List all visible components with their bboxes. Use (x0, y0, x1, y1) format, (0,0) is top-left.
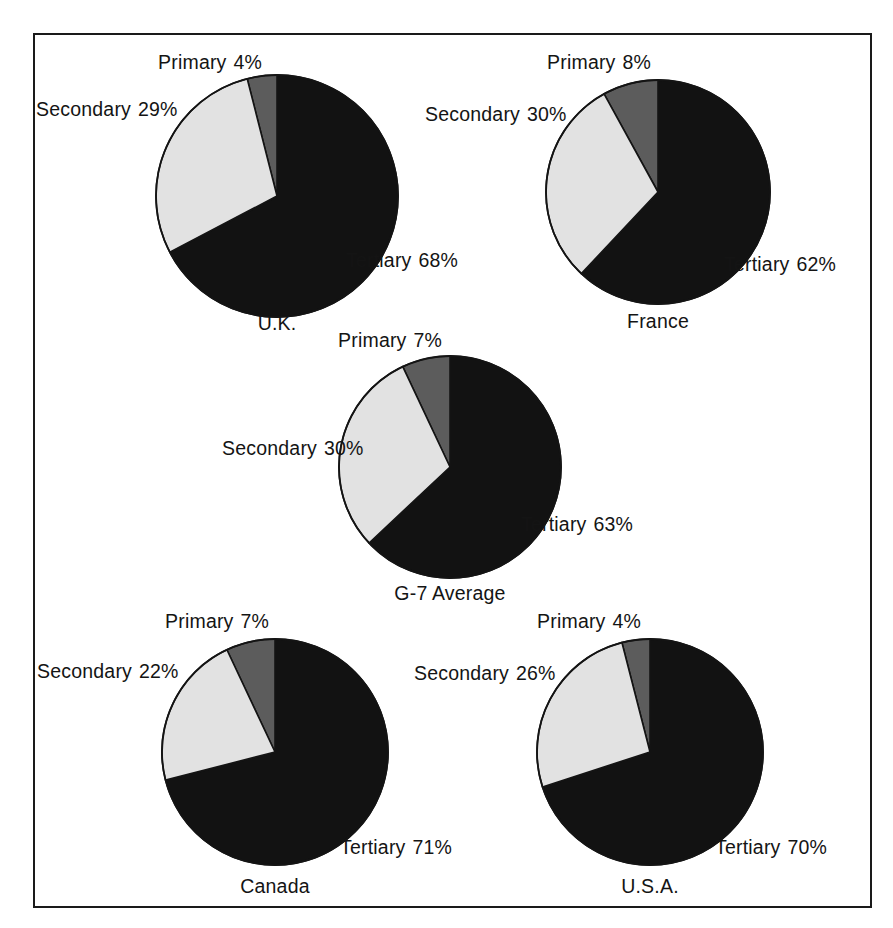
pie-chart-france-primary-label: Primary8% (547, 53, 651, 73)
primary-label-value: 8% (623, 51, 652, 73)
secondary-label-value: 30% (527, 103, 567, 125)
primary-label-text: Primary (537, 610, 606, 632)
tertiary-label-text: Tertiary (340, 836, 406, 858)
primary-label-text: Primary (547, 51, 616, 73)
primary-label-text: Primary (165, 610, 234, 632)
pie-chart-canada-primary-label: Primary7% (165, 612, 269, 632)
tertiary-label-text: Tertiary (521, 513, 587, 535)
figure-frame: Primary4% Secondary29% Tertiary68% U.K. … (33, 33, 872, 908)
primary-label-text: Primary (338, 329, 407, 351)
pie-chart-canada-svg (35, 605, 455, 910)
primary-label-value: 7% (414, 329, 443, 351)
pie-chart-usa: Primary4% Secondary26% Tertiary70% U.S.A… (415, 605, 874, 910)
tertiary-label-text: Tertiary (715, 836, 781, 858)
pie-chart-g7-average: Primary7% Secondary30% Tertiary63% G-7 A… (225, 343, 675, 635)
pie-chart-france-secondary-label: Secondary30% (425, 105, 567, 125)
pie-chart-uk-caption: U.K. (258, 314, 297, 334)
secondary-label-value: 22% (139, 660, 179, 682)
pie-chart-usa-caption: U.S.A. (621, 877, 679, 897)
pie-chart-uk: Primary4% Secondary29% Tertiary68% U.K. (35, 35, 455, 335)
pie-chart-canada-secondary-label: Secondary22% (37, 662, 179, 682)
secondary-label-value: 30% (324, 437, 364, 459)
primary-label-value: 7% (241, 610, 270, 632)
tertiary-label-value: 63% (594, 513, 634, 535)
secondary-label-text: Secondary (425, 103, 520, 125)
tertiary-label-value: 70% (788, 836, 828, 858)
secondary-label-value: 26% (516, 662, 556, 684)
secondary-label-text: Secondary (222, 437, 317, 459)
pie-chart-uk-svg (35, 35, 455, 335)
pie-chart-france: Primary8% Secondary30% Tertiary62% Franc… (435, 35, 874, 335)
pie-chart-usa-svg (415, 605, 874, 910)
pie-chart-uk-secondary-label: Secondary29% (36, 100, 178, 120)
tertiary-label-text: Tertiary (724, 253, 790, 275)
pie-chart-uk-primary-label: Primary4% (158, 53, 262, 73)
pie-chart-usa-secondary-label: Secondary26% (414, 664, 556, 684)
secondary-label-value: 29% (138, 98, 178, 120)
pie-chart-france-svg (435, 35, 874, 335)
pie-chart-canada: Primary7% Secondary22% Tertiary71% Canad… (35, 605, 455, 910)
primary-label-value: 4% (234, 51, 263, 73)
pie-chart-usa-tertiary-label: Tertiary70% (715, 838, 827, 858)
pie-chart-france-tertiary-label: Tertiary62% (724, 255, 836, 275)
pie-chart-g7-average-tertiary-label: Tertiary63% (521, 515, 633, 535)
pie-chart-canada-caption: Canada (240, 877, 310, 897)
primary-label-value: 4% (613, 610, 642, 632)
primary-label-text: Primary (158, 51, 227, 73)
secondary-label-text: Secondary (37, 660, 132, 682)
tertiary-label-value: 62% (797, 253, 837, 275)
pie-chart-g7-average-secondary-label: Secondary30% (222, 439, 364, 459)
tertiary-label-text: Tertiary (346, 249, 412, 271)
pie-chart-france-caption: France (627, 312, 689, 332)
pie-chart-g7-average-caption: G-7 Average (394, 584, 505, 604)
secondary-label-text: Secondary (36, 98, 131, 120)
pie-chart-usa-primary-label: Primary4% (537, 612, 641, 632)
pie-chart-g7-average-primary-label: Primary7% (338, 331, 442, 351)
secondary-label-text: Secondary (414, 662, 509, 684)
